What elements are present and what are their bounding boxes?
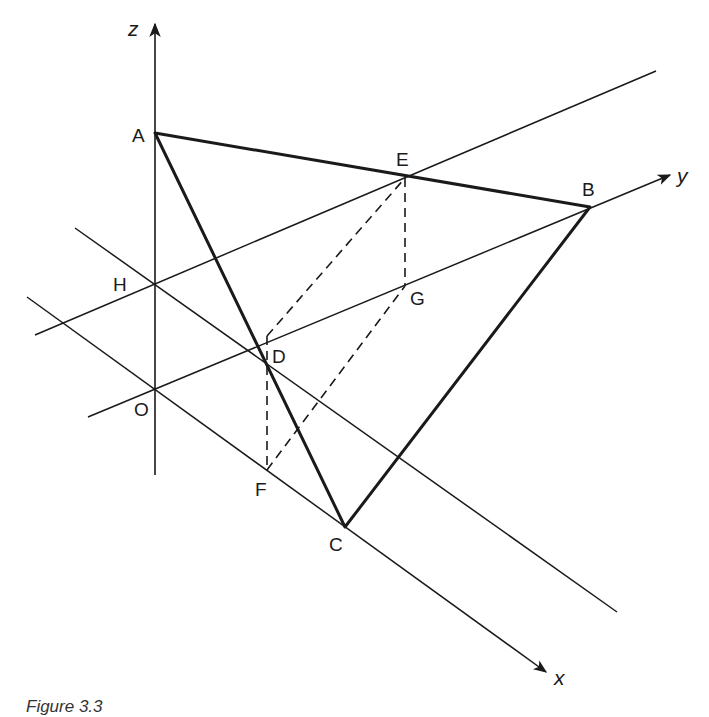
x-axis-label: x [553, 666, 566, 689]
point-label-g: G [410, 288, 425, 309]
point-label-o: O [134, 399, 149, 420]
figure-caption: Figure 3.3 [26, 697, 103, 717]
point-label-a: A [132, 125, 145, 146]
y-axis [88, 175, 670, 417]
point-label-c: C [329, 534, 343, 555]
point-label-h: H [113, 274, 127, 295]
line-through-h-parallel-x [75, 228, 617, 612]
point-label-e: E [396, 149, 409, 170]
y-axis-label: y [675, 164, 689, 187]
dashed-construction-lines [267, 178, 405, 470]
point-label-f: F [255, 479, 267, 500]
point-label-d: D [272, 346, 286, 367]
x-axis [27, 297, 546, 672]
point-label-b: B [582, 179, 595, 200]
z-axis-label: z [127, 17, 139, 40]
